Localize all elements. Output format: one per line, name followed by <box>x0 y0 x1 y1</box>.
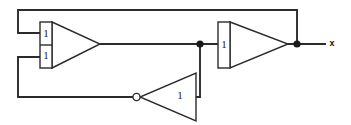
gate-inverter-bottom[interactable]: 1 <box>133 73 196 121</box>
gate-or-left-label-input-b: 1 <box>43 49 49 61</box>
circuit-schematic: 1 1 1 1 x <box>0 0 351 125</box>
gate-or-left[interactable]: 1 1 <box>40 22 100 68</box>
inversion-bubble-icon <box>133 93 140 100</box>
gate-or-left-triangle <box>52 22 100 68</box>
circuit-diagram-canvas: 1 1 1 1 x <box>0 0 351 125</box>
gate-buffer-right-triangle <box>230 22 288 68</box>
output-port-label: x <box>329 38 334 48</box>
junction-dot-output <box>293 40 300 47</box>
gate-inverter-bottom-label: 1 <box>177 89 183 101</box>
junction-dot-mid <box>196 40 203 47</box>
gate-buffer-right[interactable]: 1 <box>218 22 288 68</box>
gate-inverter-bottom-triangle <box>140 73 196 121</box>
gate-or-left-label-input-a: 1 <box>43 27 49 39</box>
gate-buffer-right-label: 1 <box>221 38 227 50</box>
wire-bottom-feedback <box>18 57 133 97</box>
